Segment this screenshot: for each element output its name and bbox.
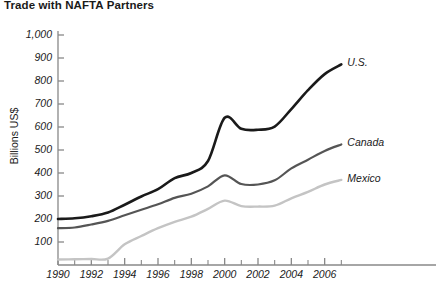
series-label-canada: Canada [347,136,384,148]
y-tick-label: 200 [2,212,52,224]
x-tick-label: 2006 [305,268,345,280]
y-tick-label: 800 [2,74,52,86]
chart-container: Trade with NAFTA Partners Billions US$ 1… [0,0,442,285]
chart-title: Trade with NAFTA Partners [4,0,154,11]
y-tick-label: 1,000 [2,28,52,40]
series-label-us: U.S. [347,56,367,68]
y-tick-label: 300 [2,189,52,201]
y-tick-label: 400 [2,166,52,178]
y-tick-label: 100 [2,235,52,247]
series-group [58,64,341,259]
series-label-mexico: Mexico [347,172,380,184]
y-tick-label: 600 [2,120,52,132]
y-tick-label: 700 [2,97,52,109]
y-tick-label: 900 [2,51,52,63]
y-tick-label: 500 [2,143,52,155]
series-line-mexico [58,180,341,260]
